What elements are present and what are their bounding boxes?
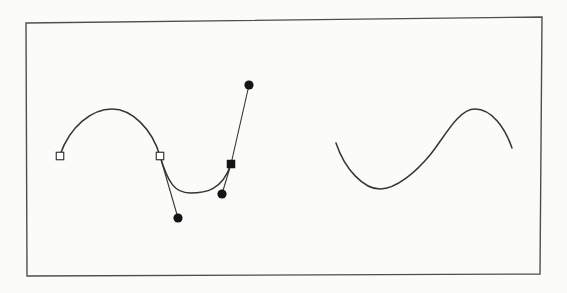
direction-point-2 (173, 213, 182, 222)
edited-curve (60, 109, 231, 193)
anchor-point-open-1 (56, 152, 64, 160)
bezier-diagram-svg (0, 0, 567, 293)
direction-point-1 (244, 80, 253, 89)
anchor-point-selected-1 (227, 160, 236, 169)
figure-frame (26, 17, 542, 276)
plain-curve (336, 109, 512, 189)
direction-line-2 (231, 85, 249, 164)
anchor-point-open-2 (156, 152, 164, 160)
scanned-figure-page (0, 0, 567, 293)
direction-point-3 (217, 189, 226, 198)
